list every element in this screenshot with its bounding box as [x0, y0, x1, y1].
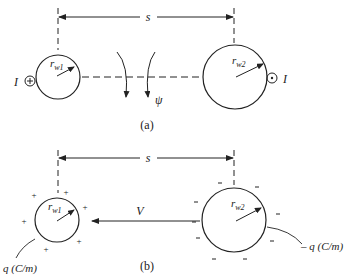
conductor-1-circle	[36, 55, 80, 99]
svg-text:+: +	[43, 244, 48, 254]
radius-label-2-b: rw2	[231, 197, 245, 212]
svg-text:+: +	[31, 190, 36, 200]
flux-arrow-2	[147, 52, 155, 97]
spacing-label: s	[146, 10, 151, 24]
positive-charges: + + + + + +	[21, 187, 87, 254]
conductor-1-circle-b	[35, 198, 79, 242]
radius-label-2: rw2	[232, 54, 246, 69]
two-wire-line-diagram: s rw1 I rw2 I ψ (a)	[0, 0, 351, 278]
spacing-label-b: s	[146, 151, 151, 165]
charge-label-1: q (C/m)	[3, 262, 37, 275]
flux-arrow-1	[117, 52, 127, 97]
panel-a-caption: (a)	[140, 118, 153, 132]
current-out-of-page-icon	[267, 73, 277, 83]
panel-b: s rw1 + + + + + + q (C/m) V rw2	[3, 150, 344, 275]
flux-label: ψ	[155, 93, 163, 107]
current-into-page-icon	[25, 76, 35, 86]
svg-text:+: +	[82, 202, 87, 212]
panel-b-caption: (b)	[140, 259, 154, 273]
voltage-label: V	[136, 204, 145, 218]
svg-text:+: +	[63, 187, 68, 197]
radius-label-1: rw1	[50, 57, 64, 72]
radius-label-1-b: rw1	[48, 200, 62, 215]
panel-a: s rw1 I rw2 I ψ (a)	[13, 8, 288, 132]
svg-text:+: +	[21, 216, 26, 226]
current-label-2: I	[282, 72, 288, 86]
current-label-1: I	[13, 75, 19, 89]
svg-text:+: +	[76, 236, 81, 246]
charge-leader-1	[16, 239, 35, 258]
charge-label-2: – q (C/m)	[300, 240, 344, 253]
